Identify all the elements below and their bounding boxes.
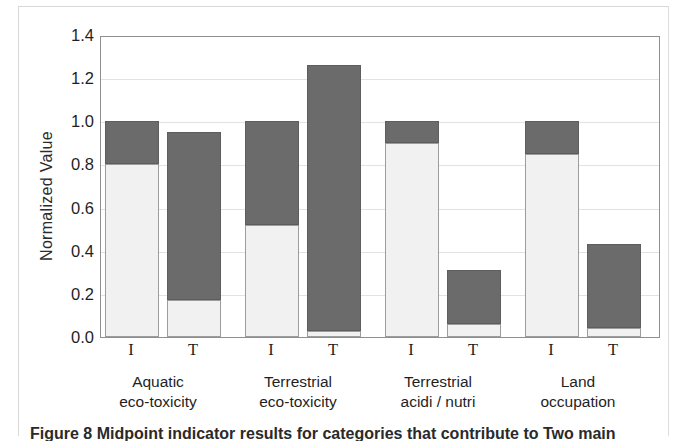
y-tick-label: 0.0 — [48, 329, 94, 346]
y-tick-label: 1.4 — [48, 27, 94, 44]
category-label-line: acidi / nutri — [368, 392, 508, 412]
figure-caption-text: Figure 8 Midpoint indicator results for … — [30, 425, 616, 441]
bar-segment-upper — [587, 244, 641, 328]
x-axis-subgroup-labels: ITITITIT — [100, 340, 660, 366]
bar-segment-lower — [245, 225, 299, 337]
bar-segment-upper — [307, 65, 361, 330]
category-label-line: eco-toxicity — [228, 392, 368, 412]
x-tick-label-t: T — [296, 340, 370, 360]
plot-area — [100, 36, 660, 338]
category-label-4: Landoccupation — [508, 372, 648, 412]
y-tick-label: 1.2 — [48, 70, 94, 87]
bar-segment-lower — [525, 154, 579, 337]
bar-segment-upper — [105, 121, 159, 164]
bar-segment-lower — [447, 324, 501, 337]
bar-t-group-4[interactable] — [587, 244, 641, 337]
bar-segment-lower — [587, 328, 641, 337]
bar-i-group-2[interactable] — [245, 121, 299, 337]
x-tick-label-t: T — [436, 340, 510, 360]
bar-segment-upper — [385, 121, 439, 143]
bar-i-group-4[interactable] — [525, 121, 579, 337]
bar-segment-upper — [447, 270, 501, 324]
figure-stacked-bar-chart: Normalized Value 0.00.20.40.60.81.01.21.… — [0, 0, 685, 441]
bar-t-group-2[interactable] — [307, 65, 361, 337]
y-tick-label: 0.4 — [48, 243, 94, 260]
category-label-3: Terrestrialacidi / nutri — [368, 372, 508, 412]
bar-i-group-1[interactable] — [105, 121, 159, 337]
category-label-line: occupation — [508, 392, 648, 412]
bar-segment-upper — [245, 121, 299, 225]
y-axis-tick-labels: 0.00.20.40.60.81.01.21.4 — [44, 0, 94, 441]
bar-t-group-3[interactable] — [447, 270, 501, 337]
category-label-1: Aquaticeco-toxicity — [88, 372, 228, 412]
x-axis-category-labels: Aquaticeco-toxicityTerrestrialeco-toxici… — [100, 372, 660, 424]
category-label-line: Land — [508, 372, 648, 392]
bar-segment-lower — [105, 164, 159, 337]
scanned-page: Normalized Value 0.00.20.40.60.81.01.21.… — [0, 0, 685, 441]
category-label-line: Terrestrial — [368, 372, 508, 392]
y-tick-label: 0.6 — [48, 200, 94, 217]
bar-segment-lower — [167, 300, 221, 337]
bar-i-group-3[interactable] — [385, 121, 439, 337]
bar-segment-upper — [167, 132, 221, 300]
figure-caption: Figure 8 Midpoint indicator results for … — [30, 425, 660, 441]
bar-t-group-1[interactable] — [167, 132, 221, 337]
x-tick-label-t: T — [156, 340, 230, 360]
bar-segment-upper — [525, 121, 579, 153]
x-tick-label-t: T — [576, 340, 650, 360]
category-label-2: Terrestrialeco-toxicity — [228, 372, 368, 412]
y-tick-label: 1.0 — [48, 113, 94, 130]
y-tick-label: 0.2 — [48, 286, 94, 303]
bar-segment-lower — [307, 331, 361, 337]
y-tick-label: 0.8 — [48, 156, 94, 173]
category-label-line: eco-toxicity — [88, 392, 228, 412]
category-label-line: Terrestrial — [228, 372, 368, 392]
gridline — [101, 79, 659, 80]
bar-segment-lower — [385, 143, 439, 337]
category-label-line: Aquatic — [88, 372, 228, 392]
